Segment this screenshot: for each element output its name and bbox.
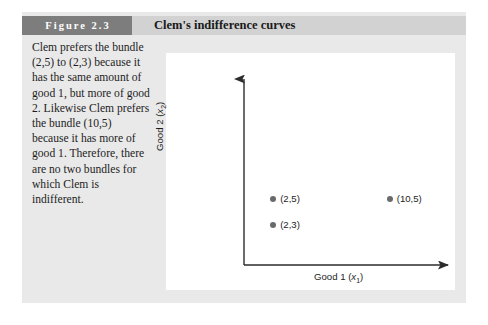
y-axis-label-text: Good 2 xyxy=(154,120,165,151)
y-axis-label-paren-close: ) xyxy=(154,102,165,105)
figure-number-box: Figure 2.3 xyxy=(22,16,132,35)
y-axis-label-var: x xyxy=(154,109,165,114)
y-axis-label: Good 2 (x2) xyxy=(154,102,167,151)
data-point-marker xyxy=(387,196,393,202)
plot-panel: Good 2 (x2) Good 1 (x1) (2,5)(2,3)(10,5) xyxy=(166,53,455,290)
x-axis-label-paren-close: ) xyxy=(360,271,363,282)
figure-title: Clem's indifference curves xyxy=(154,16,295,35)
x-axis-label-text: Good 1 xyxy=(314,271,345,282)
y-axis-label-paren: ( xyxy=(154,114,165,120)
figure-caption: Clem prefers the bundle (2,5) to (2,3) b… xyxy=(32,40,150,207)
y-axis-label-sub: 2 xyxy=(160,105,167,109)
data-point-label: (2,5) xyxy=(280,193,300,204)
figure-number-label: Figure 2.3 xyxy=(22,16,132,35)
data-point-label: (2,3) xyxy=(280,219,300,230)
figure-box: Figure 2.3 Clem's indifference curves Cl… xyxy=(22,12,466,303)
figure-header: Figure 2.3 Clem's indifference curves xyxy=(22,16,466,35)
data-point-marker xyxy=(270,196,276,202)
figure-title-band: Clem's indifference curves xyxy=(132,16,466,35)
data-point-label: (10,5) xyxy=(397,193,422,204)
x-axis-label: Good 1 (x1) xyxy=(314,271,363,284)
axes-svg xyxy=(166,53,455,290)
